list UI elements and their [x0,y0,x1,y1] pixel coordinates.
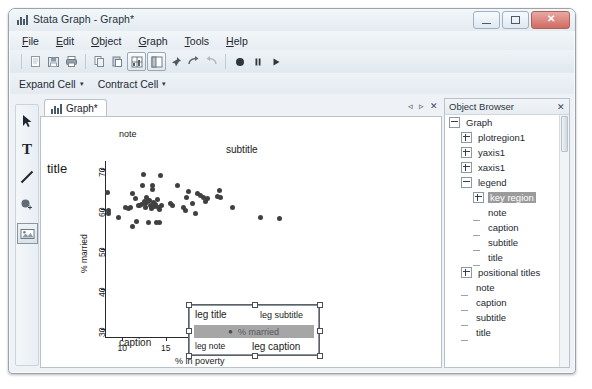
resize-handle[interactable] [186,353,192,359]
y-axis-label[interactable]: % married [79,234,89,273]
graph-canvas[interactable]: title note subtitle caption % in poverty… [40,116,442,368]
tree-node-xaxis1[interactable]: xaxis1 [445,160,560,175]
data-point[interactable] [141,172,146,177]
data-point[interactable] [155,197,160,202]
data-point[interactable] [157,220,162,225]
tab-close-icon[interactable]: ✕ [430,101,438,111]
tree-node-yaxis1[interactable]: yaxis1 [445,145,560,160]
tree-node-legend[interactable]: legend [445,175,560,190]
legend-subtitle[interactable]: leg subtitle [260,310,303,320]
data-point[interactable] [186,189,191,194]
graph-note[interactable]: note [119,129,137,139]
resize-handle[interactable] [252,353,258,359]
legend-title[interactable]: leg title [195,309,227,320]
x-axis-label[interactable]: % in poverty [175,356,225,366]
tree-node-caption[interactable]: caption [445,220,560,235]
data-point[interactable] [175,183,180,188]
redo-icon[interactable] [185,53,202,70]
resize-handle[interactable] [317,328,323,334]
legend-caption[interactable]: leg caption [252,341,300,352]
marker-tool[interactable] [18,195,37,214]
tab-graph[interactable]: Graph* [44,99,107,117]
grid-icon[interactable] [127,52,146,71]
resize-handle[interactable] [186,302,192,308]
print-icon[interactable] [63,53,80,70]
play-icon[interactable] [267,53,284,70]
expand-icon[interactable] [461,147,472,158]
data-point[interactable] [130,191,135,196]
data-point[interactable] [128,205,133,210]
resize-handle[interactable] [317,302,323,308]
tree-node-subtitle[interactable]: subtitle [445,235,560,250]
undo-icon[interactable] [203,53,220,70]
data-point[interactable] [184,195,189,200]
tree-node-key-region[interactable]: key region [445,190,560,205]
pause-icon[interactable] [249,53,266,70]
resize-handle[interactable] [186,328,192,334]
menu-graph[interactable]: Graph [136,34,169,48]
data-point[interactable] [183,208,188,213]
tree-node-title[interactable]: title [445,250,560,265]
menu-edit[interactable]: Edit [54,34,76,48]
object-tree[interactable]: Graphplotregion1yaxis1xaxis1legendkey re… [445,115,560,367]
data-point[interactable] [258,215,263,220]
data-point[interactable] [193,211,198,216]
data-point[interactable] [150,187,155,192]
tree-node-caption[interactable]: caption [445,295,560,310]
tab-prev-icon[interactable]: ◃ [408,101,413,111]
image-tool[interactable] [17,223,38,244]
tab-next-icon[interactable]: ▹ [419,101,424,111]
resize-handle[interactable] [252,302,258,308]
data-point[interactable] [134,219,139,224]
data-point[interactable] [130,224,135,229]
menu-tools[interactable]: Tools [183,34,212,48]
graph-title[interactable]: title [47,161,67,176]
menu-file[interactable]: File [20,34,41,48]
pin-icon[interactable] [167,53,184,70]
tree-node-subtitle[interactable]: subtitle [445,310,560,325]
expand-icon[interactable] [473,192,484,203]
tree-node-Graph[interactable]: Graph [445,115,560,130]
scrollbar-thumb[interactable] [561,116,568,152]
expand-icon[interactable] [461,267,472,278]
data-point[interactable] [106,211,111,216]
close-icon[interactable]: ✕ [557,102,565,112]
data-point[interactable] [205,196,210,201]
data-point[interactable] [140,183,145,188]
expand-cell-button[interactable]: Expand Cell ▾ [19,78,84,90]
tree-node-positional-titles[interactable]: positional titles [445,265,560,280]
data-point[interactable] [230,205,235,210]
save-icon[interactable] [45,53,62,70]
new-icon[interactable] [27,53,44,70]
text-tool[interactable]: T [18,139,37,158]
data-point[interactable] [217,188,222,193]
pointer-tool[interactable] [18,111,37,130]
data-point[interactable] [190,201,195,206]
tree-node-note[interactable]: note [445,280,560,295]
menu-object[interactable]: Object [89,34,123,48]
tree-node-plotregion1[interactable]: plotregion1 [445,130,560,145]
data-point[interactable] [159,203,164,208]
tree-node-title[interactable]: title [445,325,560,340]
minimize-button[interactable] [473,11,500,29]
line-tool[interactable] [18,167,37,186]
close-button[interactable]: ✕ [531,11,570,29]
record-icon[interactable] [231,53,248,70]
object-browser-scrollbar[interactable] [559,115,569,367]
maximize-button[interactable] [502,11,529,29]
menu-help[interactable]: Help [224,34,250,48]
expand-icon[interactable] [461,132,472,143]
paste-icon[interactable] [109,53,126,70]
data-point[interactable] [133,196,138,201]
data-point[interactable] [218,195,223,200]
data-point[interactable] [105,190,110,195]
data-point[interactable] [158,173,163,178]
graph-subtitle[interactable]: subtitle [226,144,258,155]
collapse-icon[interactable] [449,117,460,128]
data-point[interactable] [146,220,151,225]
legend-note[interactable]: leg note [195,341,225,351]
resize-handle[interactable] [317,353,323,359]
data-point[interactable] [116,215,121,220]
data-point[interactable] [170,203,175,208]
contract-cell-button[interactable]: Contract Cell ▾ [98,78,167,90]
